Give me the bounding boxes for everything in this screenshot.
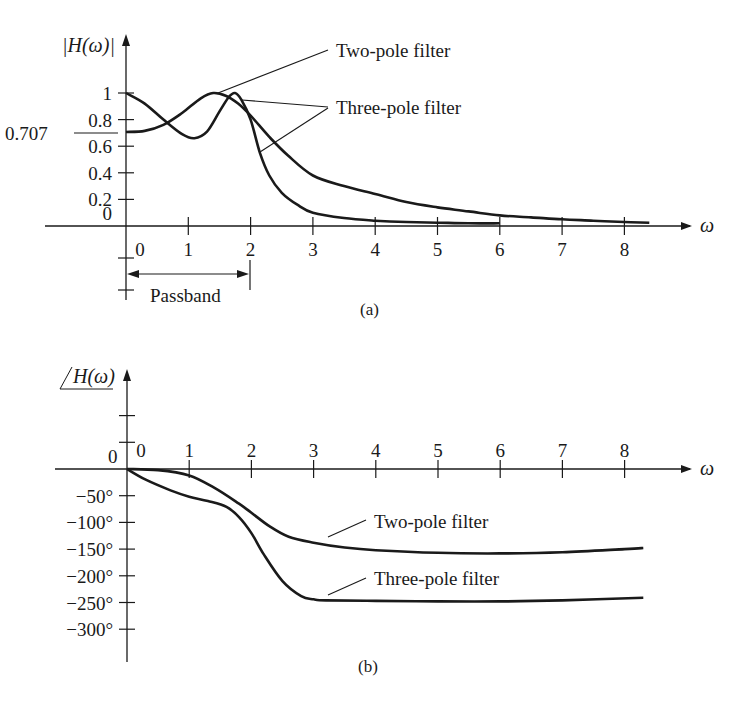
- b-two-pole-label: Two-pole filter: [374, 511, 489, 532]
- y-tick-label: −100°: [66, 512, 113, 533]
- y-tick-label: 1: [103, 83, 113, 104]
- a-y-axis-arrow-icon: [122, 34, 130, 46]
- x-tick-label: 3: [308, 239, 318, 260]
- x-tick-label: 1: [184, 239, 194, 260]
- a-two-pole-leader: [218, 50, 328, 93]
- b-caption: (b): [358, 657, 378, 676]
- b-two-pole-leader: [328, 520, 366, 537]
- a-passband-label: Passband: [150, 285, 221, 306]
- a-x-axis-arrow-icon: [681, 222, 692, 230]
- y-tick-label: −50°: [76, 486, 113, 507]
- y-tick-label: −300°: [66, 619, 113, 640]
- x-tick-label: 8: [620, 440, 630, 461]
- a-0707-label: 0.707: [5, 123, 48, 144]
- x-tick-label: 5: [433, 239, 443, 260]
- y-tick-label: −150°: [66, 539, 113, 560]
- x-tick-label: 7: [558, 440, 568, 461]
- y-tick-label: 0.2: [88, 189, 112, 210]
- x-tick-label: 8: [620, 239, 630, 260]
- b-x-axis-title: ω: [700, 457, 714, 479]
- a-two-pole-label: Two-pole filter: [336, 40, 451, 61]
- a-y-axis-title: |H(ω)|: [62, 34, 115, 57]
- x-tick-label: 0: [136, 440, 146, 461]
- a-three-pole-leader: [260, 108, 328, 152]
- y-tick-label: 0.4: [88, 163, 112, 184]
- y-tick-label: 0.8: [88, 110, 112, 131]
- filter-response-figure: 012345678 00.20.40.60.81 |H(ω)| ω 0.707 …: [0, 0, 750, 711]
- x-tick-label: 4: [371, 440, 381, 461]
- x-tick-label: 3: [309, 440, 319, 461]
- a-passband-arrow-left-icon: [127, 270, 139, 278]
- b-y-ticks: −50°−100°−150°−200°−250°−300°: [66, 416, 135, 641]
- b-y-axis-arrow-icon: [123, 369, 131, 381]
- a-passband-arrow-right-icon: [237, 270, 249, 278]
- x-tick-label: 2: [246, 239, 256, 260]
- y-tick-label: 0.6: [88, 136, 112, 157]
- x-tick-label: 1: [184, 440, 194, 461]
- x-tick-label: 2: [247, 440, 257, 461]
- x-tick-label: 6: [495, 239, 505, 260]
- b-zero-left-label: 0: [108, 446, 118, 467]
- x-tick-label: 4: [370, 239, 380, 260]
- a-x-ticks: 012345678: [135, 217, 629, 260]
- magnitude-chart: 012345678 00.20.40.60.81 |H(ω)| ω 0.707 …: [5, 34, 714, 319]
- x-tick-label: 0: [135, 239, 145, 260]
- x-tick-label: 6: [495, 440, 505, 461]
- x-tick-label: 7: [557, 239, 567, 260]
- a-y-ticks: 00.20.40.60.81: [88, 83, 134, 224]
- y-tick-label: −250°: [66, 593, 113, 614]
- phase-chart: 012345678 −50°−100°−150°−200°−250°−300° …: [55, 365, 714, 676]
- a-three-pole-leader: [242, 100, 328, 107]
- a-x-axis-title: ω: [700, 214, 714, 236]
- b-three-pole-label: Three-pole filter: [374, 568, 500, 589]
- b-x-axis-arrow-icon: [681, 465, 692, 473]
- a-caption: (a): [360, 300, 379, 319]
- a-three-pole-label: Three-pole filter: [336, 97, 462, 118]
- b-three-pole-leader: [328, 578, 366, 595]
- x-tick-label: 5: [433, 440, 443, 461]
- y-tick-label: −200°: [66, 566, 113, 587]
- b-y-axis-title: H(ω): [72, 365, 115, 388]
- b-x-ticks: 012345678: [136, 440, 629, 478]
